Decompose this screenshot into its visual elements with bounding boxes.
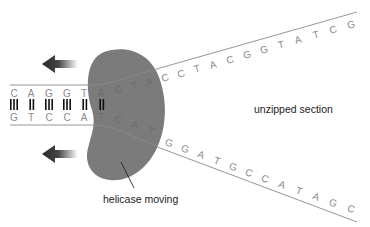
base: A bbox=[293, 33, 303, 46]
base: A bbox=[98, 88, 105, 99]
base: G bbox=[242, 48, 253, 61]
base: T bbox=[212, 154, 222, 166]
base: A bbox=[277, 178, 287, 191]
base: C bbox=[160, 71, 170, 84]
base: G bbox=[45, 88, 53, 99]
base: T bbox=[28, 112, 34, 123]
base: G bbox=[346, 18, 357, 31]
base: T bbox=[98, 112, 104, 123]
unzipped-section-label: unzipped section bbox=[254, 103, 333, 115]
base: C bbox=[244, 166, 255, 179]
base: A bbox=[28, 88, 35, 99]
base: T bbox=[312, 29, 321, 41]
base: C bbox=[225, 53, 235, 66]
helicase-diagram: C A G G T A G T C C A G T A T C A T C C … bbox=[0, 0, 370, 227]
base: A bbox=[311, 190, 321, 203]
base: C bbox=[176, 67, 186, 80]
base: C bbox=[45, 112, 52, 123]
bottom-unzipped-bases: G G A T G C C A T A G C bbox=[164, 136, 357, 215]
base: T bbox=[193, 63, 202, 75]
base: C bbox=[328, 23, 338, 36]
base: G bbox=[180, 142, 191, 155]
base: A bbox=[208, 58, 218, 71]
base: G bbox=[228, 160, 239, 173]
base: C bbox=[260, 172, 271, 185]
base: C bbox=[346, 202, 357, 215]
helicase-label: helicase moving bbox=[103, 193, 178, 205]
base: C bbox=[63, 112, 70, 123]
bottom-strand-backbone bbox=[10, 125, 357, 222]
base: G bbox=[259, 43, 270, 56]
base: C bbox=[10, 88, 17, 99]
base: A bbox=[196, 148, 206, 161]
base: G bbox=[328, 196, 339, 209]
top-unzipped-bases: C C T A C G G T A T C G bbox=[160, 18, 356, 84]
base: G bbox=[164, 136, 175, 149]
base: G bbox=[63, 88, 71, 99]
base: T bbox=[81, 88, 87, 99]
base: A bbox=[81, 112, 88, 123]
bottom-direction-arrow bbox=[42, 145, 78, 163]
top-direction-arrow bbox=[42, 55, 78, 73]
base: G bbox=[10, 112, 18, 123]
bottom-paired-bases: G T C C A bbox=[10, 112, 88, 123]
base: T bbox=[277, 39, 286, 51]
base: T bbox=[294, 184, 304, 196]
